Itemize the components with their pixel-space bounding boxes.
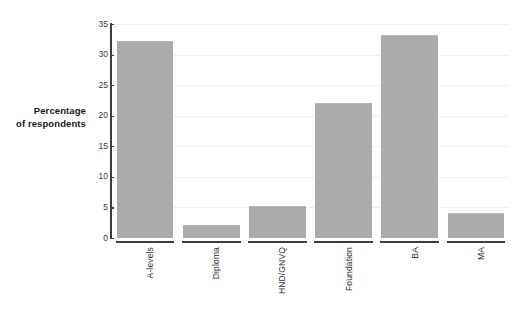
y-axis-tick-mark — [110, 207, 114, 208]
y-axis-tick-label: 25 — [86, 81, 108, 90]
bar[interactable] — [381, 35, 438, 238]
bar[interactable] — [448, 213, 505, 238]
y-axis-title-line-1: Percentage — [0, 104, 86, 117]
y-axis-tick-mark — [110, 116, 114, 117]
bar-chart: Percentage of respondents 35302520151050… — [0, 0, 523, 311]
x-axis-label-wrap: HND/GNVQ — [271, 247, 283, 307]
gridline — [112, 24, 509, 25]
y-axis-tick-label: 15 — [86, 142, 108, 151]
y-axis-tick-mark — [110, 55, 114, 56]
y-axis-tick-mark — [110, 146, 114, 147]
bar[interactable] — [315, 103, 372, 239]
x-axis-label-wrap: MA — [470, 247, 482, 307]
y-axis-tick-label: 35 — [86, 20, 108, 29]
x-axis-baseline-segment — [182, 241, 241, 243]
bar[interactable] — [117, 41, 174, 238]
x-axis-label-wrap: Foundation — [338, 247, 350, 307]
x-axis-baseline-segment — [314, 241, 373, 243]
bar[interactable] — [249, 206, 306, 238]
x-axis-label-wrap: Diploma — [205, 247, 217, 307]
x-axis-baseline-segment — [116, 241, 175, 243]
y-axis-tick-mark — [110, 85, 114, 86]
bar[interactable] — [183, 225, 240, 238]
x-axis-label: HND/GNVQ — [277, 247, 287, 294]
x-axis-label: Foundation — [344, 247, 354, 291]
y-axis-tick-mark — [110, 238, 114, 239]
x-axis-label: BA — [410, 247, 420, 259]
y-axis-tick-labels: 35302520151050 — [84, 24, 108, 238]
y-axis-title-line-2: of respondents — [0, 117, 86, 130]
y-axis-tick-label: 5 — [86, 203, 108, 212]
plot-area — [112, 24, 509, 238]
y-axis-tick-label: 0 — [86, 234, 108, 243]
x-axis-label: A-levels — [145, 247, 155, 278]
x-axis-label: Diploma — [211, 247, 221, 279]
y-axis-tick-label: 30 — [86, 50, 108, 59]
x-axis-baseline-segment — [447, 241, 506, 243]
x-axis-baseline-segment — [248, 241, 307, 243]
y-axis-tick-label: 10 — [86, 172, 108, 181]
x-axis-label: MA — [476, 247, 486, 260]
y-axis-tick-mark — [110, 177, 114, 178]
x-axis-label-wrap: A-levels — [139, 247, 151, 307]
x-axis-baseline-segment — [380, 241, 439, 243]
y-axis-title: Percentage of respondents — [0, 104, 86, 130]
x-axis-label-wrap: BA — [404, 247, 416, 307]
y-axis-tick-label: 20 — [86, 111, 108, 120]
y-axis-tick-mark — [110, 24, 114, 25]
